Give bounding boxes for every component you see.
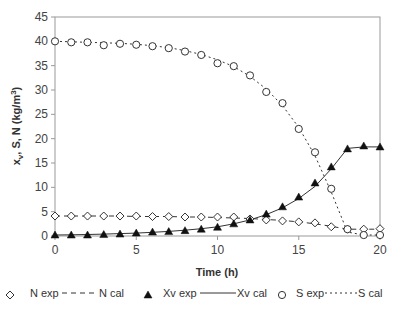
data-point <box>100 42 107 49</box>
legend-item-xv-cal: Xv cal <box>200 287 267 299</box>
legend-label: S exp <box>296 287 324 299</box>
x-tick-label: 5 <box>133 243 140 257</box>
data-point <box>197 213 205 221</box>
data-point <box>51 212 59 220</box>
legend-label: Xv exp <box>163 287 197 299</box>
y-axis-title-rest: , S, N (kg/m <box>10 95 22 155</box>
y-tick-label: 40 <box>35 34 49 48</box>
data-point <box>68 39 75 46</box>
data-point <box>214 213 222 221</box>
data-point <box>84 39 91 46</box>
data-point <box>181 48 188 55</box>
series-line-s-cal <box>55 41 380 235</box>
data-point <box>149 213 157 221</box>
data-point <box>149 228 157 235</box>
legend-label: S cal <box>358 287 382 299</box>
data-point <box>149 43 156 50</box>
legend-item-s-exp: S exp <box>278 287 324 299</box>
y-axis-title: xv, S, N (kg/m3) <box>9 86 25 165</box>
data-point <box>100 212 108 220</box>
data-point <box>165 45 172 52</box>
data-point <box>116 212 124 220</box>
x-tick-label: 15 <box>292 243 306 257</box>
x-tick-label: 0 <box>52 243 59 257</box>
y-axis-ticks: 051015202530354045 <box>35 10 55 243</box>
data-point <box>84 212 92 220</box>
y-tick-label: 30 <box>35 83 49 97</box>
data-point <box>328 185 335 192</box>
series-markers <box>51 38 384 239</box>
x-tick-label: 20 <box>373 243 387 257</box>
data-point <box>230 63 237 70</box>
data-point <box>246 72 253 79</box>
y-axis-title-close: ) <box>10 86 22 90</box>
data-point <box>116 40 123 47</box>
x-axis-title: Time (h) <box>196 266 239 278</box>
y-tick-label: 15 <box>35 156 49 170</box>
data-point <box>360 142 368 149</box>
y-tick-label: 25 <box>35 107 49 121</box>
data-point <box>295 125 302 132</box>
x-tick-label: 10 <box>211 243 225 257</box>
legend-item-s-cal: S cal <box>325 287 382 299</box>
data-point <box>311 149 318 156</box>
data-point <box>279 217 287 225</box>
data-point <box>132 212 140 220</box>
y-tick-label: 5 <box>41 205 48 219</box>
data-point <box>279 100 286 107</box>
legend-item-n-exp: N exp <box>6 287 59 299</box>
plot-area-border <box>55 17 380 236</box>
series-lines <box>55 41 380 235</box>
plot-frame <box>55 17 380 236</box>
y-tick-label: 10 <box>35 180 49 194</box>
legend-marker-icon <box>144 291 152 298</box>
data-point <box>214 60 221 67</box>
data-point <box>198 51 205 58</box>
data-point <box>181 213 189 221</box>
legend-item-xv-exp: Xv exp <box>144 287 197 299</box>
data-point <box>51 38 58 45</box>
data-point <box>67 212 75 220</box>
legend: N expN calXv expXv calS expS cal <box>6 287 382 299</box>
data-point <box>311 219 319 227</box>
data-point <box>376 231 383 238</box>
y-tick-label: 35 <box>35 59 49 73</box>
legend-marker-icon <box>6 291 14 299</box>
y-tick-label: 45 <box>35 10 49 24</box>
data-point <box>133 41 140 48</box>
chart-canvas: 051015202530354045 05101520 Time (h) xv,… <box>0 0 401 317</box>
x-axis-ticks: 05101520 <box>52 236 387 257</box>
data-point <box>165 213 173 221</box>
data-point <box>311 179 319 186</box>
series-markers-s-exp <box>51 38 383 239</box>
legend-label: N cal <box>99 287 124 299</box>
data-point <box>360 231 367 238</box>
data-point <box>344 226 351 233</box>
legend-label: N exp <box>30 287 59 299</box>
legend-label: Xv cal <box>237 287 267 299</box>
y-tick-label: 20 <box>35 132 49 146</box>
data-point <box>327 223 335 231</box>
data-point <box>263 88 270 95</box>
y-tick-label: 0 <box>41 229 48 243</box>
data-point <box>295 218 303 226</box>
legend-marker-icon <box>278 291 285 298</box>
data-point <box>327 163 335 170</box>
legend-item-n-cal: N cal <box>62 287 124 299</box>
